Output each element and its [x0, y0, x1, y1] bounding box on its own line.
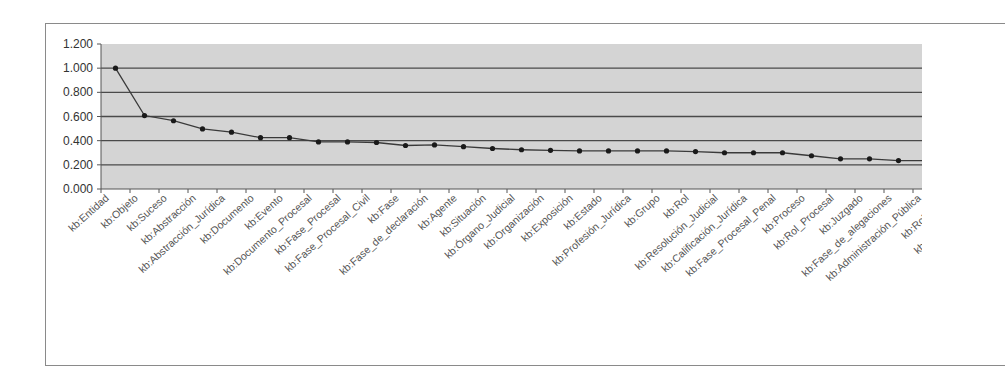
data-point-marker: [635, 148, 640, 153]
data-point-marker: [519, 147, 524, 152]
data-point-marker: [403, 143, 408, 148]
data-point-marker: [664, 148, 669, 153]
line-chart: 0.0000.2000.4000.6000.8001.0001.200kb:En…: [46, 24, 964, 367]
data-point-marker: [867, 156, 872, 161]
data-point-marker: [780, 150, 785, 155]
data-point-marker: [809, 153, 814, 158]
y-tick-label: 1.200: [63, 37, 93, 51]
data-point-marker: [838, 156, 843, 161]
data-point-marker: [722, 150, 727, 155]
data-point-marker: [432, 142, 437, 147]
data-point-marker: [345, 139, 350, 144]
x-tick-labels: kb:Entidadkb:Objetokb:Sucesokb:Abstracci…: [66, 191, 964, 282]
y-tick-label: 0.800: [63, 85, 93, 99]
data-point-marker: [751, 150, 756, 155]
data-point-marker: [896, 158, 901, 163]
data-point-marker: [577, 148, 582, 153]
data-point-marker: [142, 113, 147, 118]
data-point-marker: [258, 135, 263, 140]
data-point-marker: [287, 135, 292, 140]
chart-frame: 0.0000.2000.4000.6000.8001.0001.200kb:En…: [45, 23, 1005, 366]
y-tick-label: 0.600: [63, 110, 93, 124]
data-point-marker: [461, 144, 466, 149]
data-point-marker: [606, 148, 611, 153]
data-point-marker: [171, 118, 176, 123]
data-point-marker: [490, 146, 495, 151]
y-tick-label: 0.000: [63, 182, 93, 196]
data-point-marker: [316, 139, 321, 144]
plot-area: 0.0000.2000.4000.6000.8001.0001.200kb:En…: [63, 37, 964, 283]
data-point-marker: [548, 148, 553, 153]
y-tick-label: 0.400: [63, 134, 93, 148]
y-tick-label: 0.200: [63, 158, 93, 172]
data-point-marker: [374, 140, 379, 145]
data-point-marker: [229, 130, 234, 135]
data-point-marker: [113, 66, 118, 71]
y-tick-label: 1.000: [63, 61, 93, 75]
data-point-marker: [200, 126, 205, 131]
data-point-marker: [693, 149, 698, 154]
